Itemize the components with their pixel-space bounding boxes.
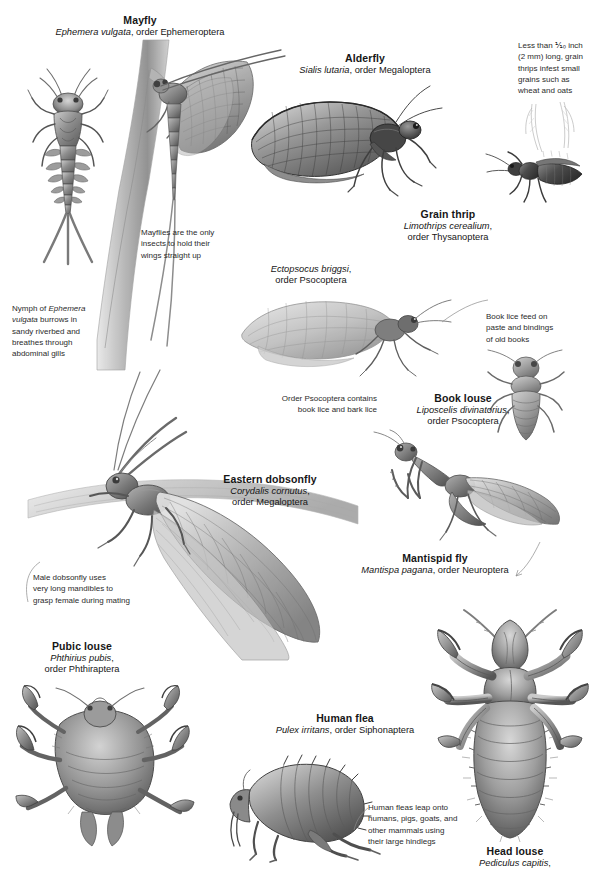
label-grain-thrip-sci: Limothrips cerealium, (378, 221, 518, 232)
label-ectopsocus-sci: Ectopsocus briggsi, (243, 264, 379, 275)
label-pubic-louse-common: Pubic louse (28, 640, 136, 653)
label-human-flea: Human flea Pulex irritans, order Siphona… (252, 712, 438, 736)
human-flea-illustration (222, 742, 382, 862)
label-head-louse: Head louse Pediculus capitis, (450, 845, 580, 869)
mantispid-fly-illustration (370, 430, 570, 555)
label-grain-thrip-sci2: order Thysanoptera (378, 232, 518, 243)
annotation-mayfly-wings: Mayflies are the only insects to hold th… (141, 227, 246, 261)
label-ectopsocus-sci2: order Psocoptera (243, 275, 379, 286)
label-mayfly-common: Mayfly (30, 14, 250, 27)
label-mayfly: Mayfly Ephemera vulgata, order Ephemerop… (30, 14, 250, 38)
reference-page: Mayfly Ephemera vulgata, order Ephemerop… (0, 0, 589, 871)
annotation-book-lice-feed: Book lice feed on paste and bindings of … (486, 311, 582, 345)
label-human-flea-common: Human flea (252, 712, 438, 725)
label-mantispid-fly-common: Mantispid fly (348, 552, 522, 565)
label-grain-thrip-common: Grain thrip (378, 208, 518, 221)
label-mayfly-sci: Ephemera vulgata, order Ephemeroptera (30, 27, 250, 38)
alderfly-illustration (238, 82, 458, 217)
label-eastern-dobsonfly: Eastern dobsonfly Corydalis cornutus, or… (190, 473, 350, 508)
label-alderfly: Alderfly Sialis lutaria, order Megalopte… (250, 52, 480, 76)
label-human-flea-sci: Pulex irritans, order Siphonaptera (252, 725, 438, 736)
label-eastern-dobsonfly-common: Eastern dobsonfly (190, 473, 350, 486)
annotation-grain-thrip: Less than ⅒ inch (2 mm) long, grain thri… (518, 40, 588, 97)
label-head-louse-common: Head louse (450, 845, 580, 858)
grain-thrip-illustration (484, 140, 588, 210)
label-book-louse-common: Book louse (398, 392, 528, 405)
label-head-louse-sci: Pediculus capitis, (450, 858, 580, 869)
pubic-louse-illustration (18, 662, 198, 862)
eastern-dobsonfly-illustration (28, 360, 358, 660)
label-grain-thrip: Grain thrip Limothrips cerealium, order … (378, 208, 518, 243)
head-louse-illustration (430, 608, 589, 843)
label-book-louse-sci: Liposcelis divinatorius, (398, 405, 528, 416)
label-ectopsocus: Ectopsocus briggsi, order Psocoptera (243, 264, 379, 287)
label-mantispid-fly: Mantispid fly Mantispa pagana, order Neu… (348, 552, 522, 576)
annotation-dobsonfly-mandibles: Male dobsonfly uses very long mandibles … (33, 572, 165, 606)
label-eastern-dobsonfly-sci2: order Megaloptera (190, 497, 350, 508)
label-book-louse: Book louse Liposcelis divinatorius, orde… (398, 392, 528, 427)
label-eastern-dobsonfly-sci: Corydalis cornutus, (190, 486, 350, 497)
label-alderfly-common: Alderfly (250, 52, 480, 65)
label-mantispid-fly-sci: Mantispa pagana, order Neuroptera (348, 565, 522, 576)
label-alderfly-sci: Sialis lutaria, order Megaloptera (250, 65, 480, 76)
annotation-mayfly-nymph: Nymph of Ephemera vulgata burrows in san… (12, 303, 117, 360)
label-book-louse-sci2: order Psocoptera (398, 416, 528, 427)
